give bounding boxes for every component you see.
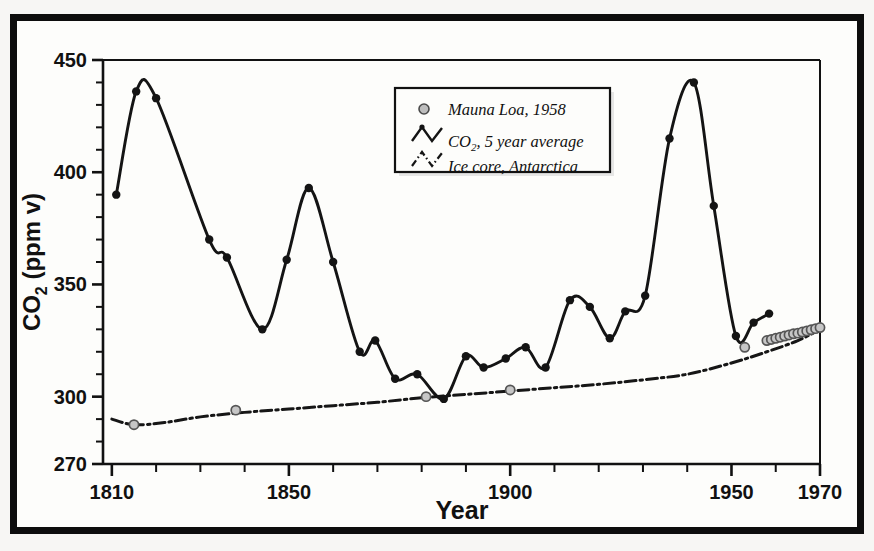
data-point-co2: [521, 343, 529, 351]
svg-text:CO2 (ppm v): CO2 (ppm v): [18, 193, 50, 331]
legend-marker-co2-dot: [419, 124, 424, 129]
chart-plot-area: 270300350400450 18101850190019501970 CO2…: [0, 0, 874, 551]
x-tick-label: 1900: [488, 481, 533, 503]
data-point-co2: [371, 336, 379, 344]
x-axis-title: Year: [436, 496, 489, 524]
y-tick-label: 270: [54, 453, 87, 475]
legend-label-mauna-loa: Mauna Loa, 1958: [447, 100, 567, 119]
data-point-mauna-loa: [740, 343, 749, 352]
legend-marker-mauna-loa: [419, 104, 429, 114]
data-point-mauna-loa: [231, 406, 240, 415]
figure-container: 270300350400450 18101850190019501970 CO2…: [0, 0, 874, 551]
x-tick-label: 1950: [709, 481, 754, 503]
data-point-co2: [641, 291, 649, 299]
data-point-co2: [765, 309, 773, 317]
series-ice-core-antarctica: [112, 329, 820, 425]
y-tick-label: 450: [54, 49, 87, 71]
y-tick-label: 300: [54, 386, 87, 408]
data-point-co2: [462, 352, 470, 360]
data-point-co2: [305, 184, 313, 192]
data-point-co2: [152, 94, 160, 102]
data-point-co2: [413, 370, 421, 378]
data-point-mauna-loa: [129, 420, 138, 429]
x-axis-ticks: [112, 464, 820, 476]
legend-label-ice-core: Ice core, Antarctica: [447, 157, 578, 176]
x-tick-label: 1810: [90, 481, 135, 503]
data-point-co2: [502, 354, 510, 362]
data-point-mauna-loa: [421, 392, 430, 401]
data-point-co2: [665, 134, 673, 142]
y-axis-title-sub: 2: [33, 286, 50, 295]
data-point-co2: [690, 78, 698, 86]
x-tick-label: 1970: [798, 481, 843, 503]
data-point-mauna-loa: [506, 385, 515, 394]
y-tick-label: 350: [54, 273, 87, 295]
data-point-co2: [258, 325, 266, 333]
co2-chart-svg: 270300350400450 18101850190019501970 CO2…: [0, 0, 874, 551]
y-axis-title-unit: (ppm v): [18, 193, 45, 286]
data-point-co2: [132, 87, 140, 95]
data-point-co2: [710, 202, 718, 210]
data-point-co2: [391, 375, 399, 383]
chart-legend: Mauna Loa, 1958 CO2, 5 year average Ice …: [395, 88, 614, 176]
data-point-co2: [112, 190, 120, 198]
series-mauna-loa-1958: [129, 323, 824, 429]
y-axis-title: CO2 (ppm v): [18, 193, 50, 331]
x-tick-label: 1850: [267, 481, 312, 503]
legend-label-co2-average: CO2, 5 year average: [448, 132, 584, 153]
data-point-co2: [541, 363, 549, 371]
y-axis-ticks: [92, 60, 103, 464]
y-axis-title-main: CO: [18, 295, 45, 331]
data-point-co2: [356, 348, 364, 356]
y-axis-tick-labels: 270300350400450: [54, 49, 87, 475]
data-point-co2: [566, 296, 574, 304]
data-point-co2: [586, 303, 594, 311]
data-point-co2: [440, 395, 448, 403]
y-tick-label: 400: [54, 161, 87, 183]
data-point-mauna-loa: [815, 323, 824, 332]
data-point-co2: [329, 258, 337, 266]
data-point-co2: [606, 334, 614, 342]
data-point-co2: [732, 332, 740, 340]
data-point-co2: [479, 363, 487, 371]
data-point-co2: [749, 318, 757, 326]
data-point-co2: [282, 256, 290, 264]
data-point-co2: [621, 307, 629, 315]
data-point-co2: [205, 235, 213, 243]
data-point-co2: [223, 253, 231, 261]
